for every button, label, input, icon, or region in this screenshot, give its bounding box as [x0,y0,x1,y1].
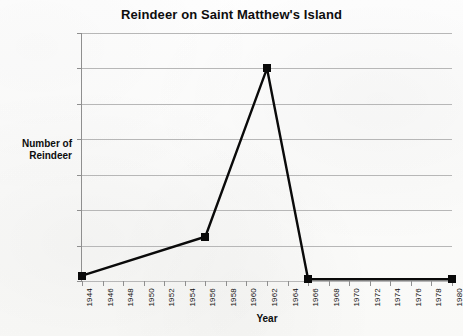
x-tick-mark [431,281,432,286]
x-tick-label: 1980 [455,288,463,307]
data-point-marker [201,233,209,241]
x-tick-mark [329,281,330,286]
x-tick-label: 1946 [106,288,115,307]
x-axis-title: Year [82,313,452,324]
x-tick-label: 1954 [188,288,197,307]
x-tick-label: 1952 [167,288,176,307]
x-tick-label: 1970 [352,288,361,307]
x-tick-label: 1974 [393,288,402,307]
data-point-marker [448,275,456,283]
x-tick-label: 1978 [434,288,443,307]
x-tick-mark [82,281,83,286]
x-tick-mark [226,281,227,286]
y-axis-title: Number of Reindeer [0,138,72,162]
chart-figure: Reindeer on Saint Matthew's Island Numbe… [0,0,463,336]
x-tick-mark [123,281,124,286]
x-tick-label: 1972 [373,288,382,307]
x-tick-mark [288,281,289,286]
x-tick-mark [205,281,206,286]
data-point-marker [263,64,271,72]
y-axis-title-line-2: Reindeer [0,150,72,162]
x-tick-mark [267,281,268,286]
x-tick-mark [164,281,165,286]
x-tick-mark [390,281,391,286]
x-tick-label: 1948 [126,288,135,307]
x-tick-mark [411,281,412,286]
x-tick-mark [246,281,247,286]
data-point-marker [304,275,312,283]
x-tick-label: 1966 [311,288,320,307]
x-tick-mark [144,281,145,286]
y-axis-title-line-1: Number of [0,138,72,150]
x-tick-label: 1960 [249,288,258,307]
x-tick-label: 1956 [208,288,217,307]
chart-title: Reindeer on Saint Matthew's Island [0,7,463,22]
x-tick-mark [185,281,186,286]
x-tick-label: 1958 [229,288,238,307]
x-tick-label: 1976 [414,288,423,307]
x-tick-label: 1964 [291,288,300,307]
x-tick-mark [370,281,371,286]
x-tick-label: 1968 [332,288,341,307]
x-tick-mark [103,281,104,286]
x-tick-label: 1944 [85,288,94,307]
x-tick-mark [349,281,350,286]
x-tick-label: 1962 [270,288,279,307]
x-tick-label: 1950 [147,288,156,307]
plot-area: 01000200030004000500060007000 1944194619… [82,33,452,281]
data-point-marker [78,272,86,280]
